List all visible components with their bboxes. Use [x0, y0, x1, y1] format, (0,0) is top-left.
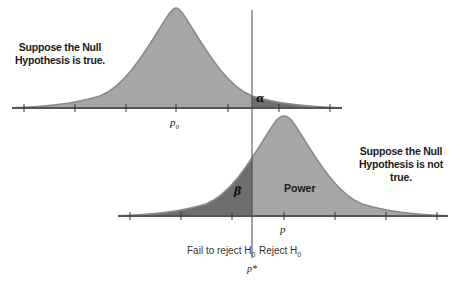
- beta-label: β: [234, 185, 241, 198]
- caption-line: Hypothesis is true.: [12, 54, 108, 67]
- subscript: 0: [251, 251, 255, 258]
- alpha-label: α: [256, 92, 264, 105]
- p-label: p: [280, 223, 286, 235]
- reject-label: Reject H0: [259, 245, 301, 258]
- null-true-caption: Suppose the Null Hypothesis is true.: [12, 41, 108, 67]
- subscript: 0: [176, 123, 180, 131]
- region-text: Reject H: [259, 245, 297, 256]
- fail-to-reject-label: Fail to reject H0: [187, 245, 255, 258]
- caption-line: Suppose the Null: [347, 145, 455, 158]
- p-star-label: p*: [247, 263, 257, 274]
- caption-line: Hypothesis is not true.: [347, 158, 455, 184]
- subscript: 0: [297, 251, 301, 258]
- region-text: Fail to reject H: [187, 245, 251, 256]
- power-label: Power: [284, 182, 316, 194]
- null-false-caption: Suppose the Null Hypothesis is not true.: [347, 145, 455, 184]
- caption-line: Suppose the Null: [12, 41, 108, 54]
- p0-label: p0: [170, 116, 179, 131]
